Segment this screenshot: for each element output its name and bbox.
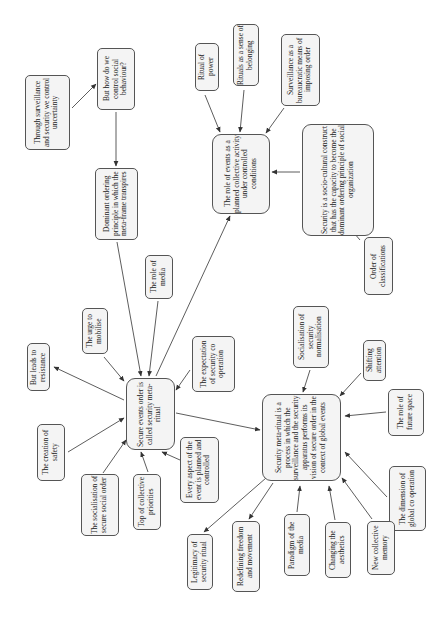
node-label: The dimension of global co operation bbox=[399, 467, 416, 530]
edge-expectation-to-secure-events bbox=[176, 370, 190, 390]
node-label: Ritual of power bbox=[198, 44, 215, 90]
edge-shifting-attention-to-meta-ritual bbox=[340, 373, 361, 396]
edge-meta-ritual-to-redefining-freedom bbox=[249, 483, 273, 519]
node-label: Top of collective priorities bbox=[138, 475, 155, 529]
node-aesthetics: Changing the aesthetics bbox=[325, 522, 351, 578]
edge-top-priorities-to-secure-events bbox=[141, 452, 148, 472]
node-socialisation-normalisation: Socialisation of security normalisation bbox=[293, 306, 329, 368]
node-secure-events: Secure events order is called security m… bbox=[126, 378, 175, 450]
edge-urge-mobilise-to-secure-events bbox=[104, 357, 124, 381]
edge-rituals-belonging-to-role-events bbox=[240, 90, 244, 132]
node-label: The role of media bbox=[150, 256, 167, 298]
node-label: The creation of safety bbox=[42, 425, 59, 480]
node-order-classifications: Order of classifications bbox=[364, 237, 393, 295]
node-resistance: But leads to resistance bbox=[27, 343, 50, 391]
node-meta-ritual: Security meta-ritual is a process in whi… bbox=[262, 394, 341, 481]
node-rituals-belonging: Rituals as a sense of belonging bbox=[233, 24, 259, 86]
node-label: But leads to resistance bbox=[30, 344, 47, 390]
node-future-space: The role of future space bbox=[388, 389, 424, 436]
node-surveillance-bureaucratic: Surveillance as a bureaucratic means of … bbox=[281, 34, 320, 106]
node-label: Surveillance as a bureaucratic means of … bbox=[287, 35, 313, 105]
edge-collective-memory-to-meta-ritual bbox=[342, 478, 372, 519]
node-socialisation-order: The socialisation of secure social order bbox=[81, 474, 119, 536]
node-label: Secure events order is called security m… bbox=[137, 379, 163, 449]
node-paradigm-media: Paradigm of the media bbox=[284, 514, 310, 576]
edge-dominant-principle-to-secure-events bbox=[117, 242, 141, 376]
concept-map-canvas: Through surveillance and security we con… bbox=[0, 0, 438, 632]
node-label: Changing the aesthetics bbox=[329, 523, 346, 577]
edge-role-media-to-secure-events bbox=[149, 301, 158, 376]
node-expectation: The expectation of security co operation bbox=[192, 336, 235, 392]
node-legitimacy: Legitimacy of security ritual bbox=[187, 534, 213, 590]
node-label: Socialisation of security normalisation bbox=[298, 307, 324, 367]
edge-socialisation-normalisation-to-meta-ritual bbox=[303, 370, 310, 392]
node-uncertainty: Through surveillance and security we con… bbox=[25, 75, 70, 150]
node-label: Redefining freedom and movement bbox=[237, 522, 254, 591]
edge-secure-events-to-meta-ritual bbox=[176, 413, 260, 430]
node-every-aspect: Every aspect of the event is planned and… bbox=[180, 437, 219, 503]
node-global-cooperation: The dimension of global co operation bbox=[389, 466, 426, 531]
node-label: Security meta-ritual is a process in whi… bbox=[275, 395, 327, 480]
node-label: Order of classifications bbox=[370, 238, 387, 294]
node-redefining-freedom: Redefining freedom and movement bbox=[232, 521, 260, 592]
node-label: The expectation of security co operation bbox=[200, 337, 226, 391]
node-label: New collective memory bbox=[372, 522, 389, 574]
node-label: The socialisation of secure social order bbox=[91, 475, 108, 535]
node-label: Shifting attention bbox=[366, 341, 383, 380]
node-label: Through surveillance and security we con… bbox=[34, 76, 60, 149]
edge-ritual-power-to-role-events bbox=[205, 95, 220, 132]
edge-future-space-to-meta-ritual bbox=[345, 412, 386, 416]
node-top-priorities: Top of collective priorities bbox=[133, 474, 161, 530]
node-label: But how do we control social behaviour? bbox=[103, 49, 129, 109]
node-shifting-attention: Shifting attention bbox=[363, 340, 386, 381]
node-dominant-principle: Dominant ordering principle in which the… bbox=[95, 168, 138, 240]
node-label: The role of future space bbox=[397, 390, 414, 435]
node-role-events: The role of events as a planned collecti… bbox=[212, 134, 270, 214]
node-label: Dominant ordering principle in which the… bbox=[103, 169, 129, 239]
node-control-behaviour: But how do we control social behaviour? bbox=[97, 48, 135, 110]
edge-surveillance-bureaucratic-to-role-events bbox=[266, 108, 284, 133]
edge-socialisation-order-to-secure-events bbox=[103, 440, 126, 473]
node-collective-memory: New collective memory bbox=[367, 521, 395, 575]
edge-uncertainty-to-control-behaviour bbox=[72, 84, 96, 108]
node-creation-safety: The creation of safety bbox=[37, 424, 65, 481]
node-label: Every aspect of the event is planned and… bbox=[186, 438, 212, 502]
node-role-media: The role of media bbox=[145, 255, 173, 299]
edge-aesthetics-to-meta-ritual bbox=[329, 486, 335, 520]
node-socio-cultural: Security is a socio-cultural construct t… bbox=[302, 124, 374, 236]
node-label: Legitimacy of security ritual bbox=[191, 535, 208, 589]
node-label: Rituals as a sense of belonging bbox=[237, 25, 254, 85]
edge-creation-safety-to-secure-events bbox=[68, 418, 124, 452]
node-urge-mobilise: The urge to mobilise bbox=[82, 308, 108, 354]
node-ritual-power: Ritual of power bbox=[195, 43, 219, 91]
edge-every-aspect-to-secure-events bbox=[162, 452, 180, 460]
node-label: Paradigm of the media bbox=[288, 515, 305, 575]
node-label: The role of events as a planned collecti… bbox=[224, 135, 259, 213]
node-label: The urge to mobilise bbox=[86, 309, 103, 353]
edge-secure-events-to-resistance bbox=[54, 367, 124, 400]
edge-paradigm-media-to-meta-ritual bbox=[297, 486, 300, 512]
node-label: Security is a socio-cultural construct t… bbox=[321, 125, 356, 235]
